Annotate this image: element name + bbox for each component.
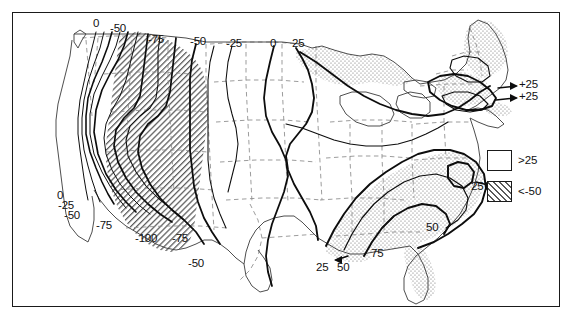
contour-label: -75 [148,33,164,45]
contour-label: -25 [226,37,242,49]
legend-label-greater-25: >25 [518,154,538,166]
legend-swatch-greater-25 [487,150,512,171]
contour-label: 25 [292,37,304,49]
contour-label: -50 [190,35,206,47]
legend-label-less-minus-50: <-50 [518,185,541,197]
contour-label: -50 [110,22,126,34]
contour-label: 0 [93,17,99,29]
contour-label: +25 [519,90,538,102]
contour-label: -75 [172,232,188,244]
contour-label: 75 [371,247,383,259]
figure-root: 0 -50 -75 -50 -25 0 25 +25 +25 25 50 75 … [0,0,576,319]
contour-label: 50 [426,221,438,233]
contour-label: -100 [135,232,157,244]
contour-label: -50 [188,257,204,269]
contour-label: -50 [64,209,80,221]
contour-label: 25 [316,261,328,273]
contour-label: 50 [337,261,349,273]
contour-label: -75 [96,219,112,231]
legend-swatch-less-minus-50 [487,181,512,202]
hatch-regions [106,32,208,252]
contour-label: 0 [270,37,276,49]
contour-label: 25 [471,180,483,192]
contour-label: +25 [519,78,538,90]
